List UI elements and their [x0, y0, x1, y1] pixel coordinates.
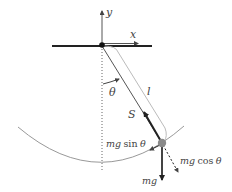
tangential-force-label: mg sin θ — [106, 138, 146, 149]
pivot-point — [99, 42, 105, 48]
tension-label: S — [128, 108, 136, 121]
radial-component-arrow — [163, 145, 178, 172]
weight-label: mg — [142, 175, 157, 186]
pendulum-diagram: y x θ l S mg sin θ mg cos θ mg — [0, 0, 232, 192]
angle-label: θ — [109, 86, 116, 99]
angle-arc — [103, 79, 119, 84]
pendulum-bob — [158, 139, 166, 147]
tangential-component-arrow — [150, 145, 160, 150]
length-label: l — [147, 85, 151, 98]
tension-arrow — [144, 112, 162, 143]
radial-force-label: mg cos θ — [180, 155, 222, 166]
y-axis-label: y — [105, 6, 113, 19]
diagram-canvas: y x θ l S mg sin θ mg cos θ mg — [0, 0, 232, 192]
x-axis-label: x — [130, 28, 137, 41]
